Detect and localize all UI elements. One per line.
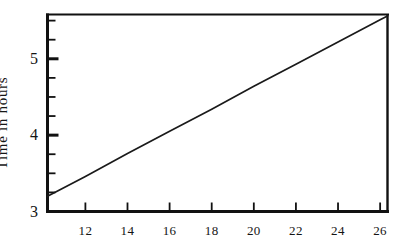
x-tick-label: 16 bbox=[163, 223, 177, 239]
axis-frame bbox=[46, 14, 389, 213]
plot-area bbox=[0, 0, 409, 246]
y-tick-label: 4 bbox=[30, 126, 38, 144]
data-series-line bbox=[48, 16, 388, 196]
y-tick-label: 5 bbox=[30, 50, 38, 68]
x-tick-label: 20 bbox=[247, 223, 261, 239]
x-tick-label: 14 bbox=[121, 223, 135, 239]
x-tick-label: 24 bbox=[331, 223, 345, 239]
x-tick-label: 26 bbox=[373, 223, 387, 239]
x-tick-label: 18 bbox=[205, 223, 219, 239]
chart-figure: Time in hours 1214161820222426 345 bbox=[0, 0, 409, 246]
x-tick-label: 12 bbox=[78, 223, 92, 239]
y-tick-label: 3 bbox=[30, 203, 38, 221]
y-axis-ticks bbox=[48, 21, 59, 212]
x-tick-label: 22 bbox=[289, 223, 303, 239]
